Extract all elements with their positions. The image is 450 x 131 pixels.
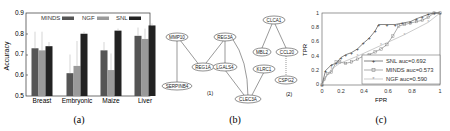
svg-text:0: 0 [316,81,319,87]
bar-minds-liver [135,36,142,96]
y-axis-label: Accuracy [3,41,11,70]
svg-text:0.4: 0.4 [360,88,368,94]
y-axis-label: TPR [302,43,308,56]
svg-text:+: + [356,46,359,52]
group-2-label: (2) [286,91,292,97]
svg-text:*: * [380,42,382,48]
bars-group [32,23,156,96]
svg-text:+: + [344,52,347,58]
bar-ngf-embryonic [74,66,81,96]
svg-text:*: * [339,60,341,66]
svg-text:*: * [404,32,406,38]
svg-text:0.4: 0.4 [311,53,319,59]
x-axis-label: FPR [375,97,388,103]
node-klrc1: KLRC1 [257,67,272,72]
svg-text:0.6: 0.6 [311,38,319,44]
panel-caption: (b) [229,114,241,126]
svg-text:0.6: 0.6 [384,88,392,94]
node-mbl2: MBL2 [256,50,268,55]
svg-text:0.8: 0.8 [311,24,319,30]
svg-text:*: * [427,19,429,25]
svg-text:SNL: SNL [116,15,128,21]
bar-minds-embryonic [67,73,74,96]
panel-caption: (c) [375,114,386,126]
svg-text:*: * [330,66,332,72]
svg-text:+: + [394,22,397,28]
bar-ngf-liver [142,39,149,96]
svg-text:+: + [372,58,376,64]
bar-snl-liver [149,25,156,96]
svg-text:MINDS: MINDS [41,15,60,21]
y-tick: 0.6 [15,71,24,78]
svg-text:+: + [350,50,353,56]
group-1-label: (1) [207,90,213,96]
node-clec3a: CLEC3A [239,97,258,102]
svg-text:+: + [377,22,380,28]
y-tick: 0.7 [15,50,24,57]
node-serpinb4: SERPINB4 [166,84,189,89]
bar-snl-breast [46,46,53,96]
svg-text:0: 0 [320,88,323,94]
svg-text:+: + [368,35,371,41]
x-category: Liver [138,97,153,104]
svg-text:0.2: 0.2 [311,67,319,73]
svg-text:NGF auc=0.590: NGF auc=0.590 [386,76,427,82]
svg-text:1: 1 [316,10,319,16]
node-mmp10: MMP10 [169,35,185,40]
y-tick: 0.8 [15,30,24,37]
legend: + * SNL auc=0.692 MINDS auc=0.573 NGF au… [362,55,440,84]
bar-ngf-breast [39,50,46,96]
bar-snl-embryonic [81,34,88,96]
x-category: Embryonic [62,97,93,105]
y-tick: 0.9 [15,9,24,16]
node-reg3a: REG3A [217,35,234,40]
bar-ngf-maize [108,70,115,96]
svg-text:1: 1 [438,88,441,94]
legend: MINDS NGF SNL [41,15,141,21]
node-cspg2: CSPG2 [278,78,294,83]
y-tick: 0.5 [15,92,24,99]
svg-text:SNL auc=0.692: SNL auc=0.692 [386,58,426,64]
svg-text:*: * [325,75,327,81]
panel-c-roc-chart: TPR FPR 1 0.8 0.6 0.4 0.2 0 0 0.2 0.4 0.… [300,0,450,131]
svg-text:+: + [374,28,377,34]
panel-a-bar-chart: Accuracy 0.9 0.8 0.7 0.6 0.5 MINDS NGF S… [0,0,160,131]
svg-text:*: * [439,10,441,16]
svg-text:*: * [356,53,358,59]
svg-text:MINDS auc=0.573: MINDS auc=0.573 [386,67,434,73]
panel-b-network: MMP10 SERPINB4 REG3A REG1A LGALS4 CLEC3A… [160,0,310,131]
panel-caption: (a) [73,114,84,126]
svg-text:+: + [385,22,388,28]
svg-text:0.2: 0.2 [337,88,345,94]
x-category: Maize [102,97,120,104]
node-clca1: CLCA1 [267,18,282,23]
node-reg1a: REG1A [195,65,212,70]
node-ccl20: CCL20 [280,50,295,55]
bar-snl-maize [115,31,122,96]
svg-text:+: + [421,14,424,20]
svg-text:+: + [362,40,365,46]
svg-text:*: * [321,82,323,88]
x-category: Breast [33,97,52,104]
node-lgals4: LGALS4 [216,65,234,70]
bar-minds-maize [101,50,108,96]
svg-text:0.8: 0.8 [408,88,416,94]
bar-minds-breast [32,48,39,96]
svg-text:NGF: NGF [82,15,95,21]
